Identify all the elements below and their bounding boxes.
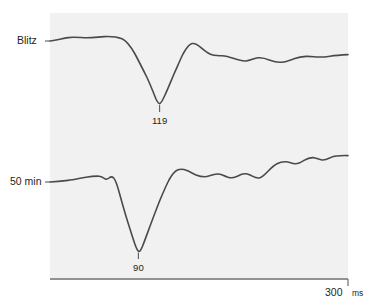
plot-area-background (50, 13, 348, 278)
time-axis-end-value: 300 (325, 286, 343, 298)
time-axis-unit: ms (352, 288, 363, 298)
series-label-50min: 50 min (10, 175, 42, 187)
peak-label-50min: 90 (133, 262, 144, 273)
series-label-blitz: Blitz (17, 34, 37, 46)
erg-waveform-figure: 119 90 Blitz 50 min 300 ms (0, 0, 376, 304)
peak-label-blitz: 119 (152, 115, 167, 126)
